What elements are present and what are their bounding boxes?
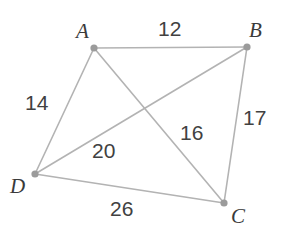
length-label-bc: 17	[243, 107, 266, 128]
vertex-point-c	[220, 199, 227, 206]
length-label-da: 14	[25, 92, 48, 113]
vertex-point-a	[90, 44, 97, 51]
vertex-label-a: A	[76, 21, 89, 42]
vertex-point-b	[243, 43, 250, 50]
length-label-db: 20	[92, 140, 115, 161]
segment-ab	[94, 47, 247, 48]
geometry-diagram: ABCD 121417162026	[0, 0, 295, 238]
vertex-label-c: C	[231, 206, 245, 227]
edges-group	[35, 47, 247, 203]
length-label-cd: 26	[110, 198, 133, 219]
vertex-point-d	[31, 170, 38, 177]
segment-db	[35, 47, 247, 174]
length-label-ac: 16	[180, 122, 203, 143]
vertex-label-b: B	[249, 20, 262, 41]
length-label-ab: 12	[158, 18, 181, 39]
vertex-label-d: D	[10, 176, 25, 197]
segment-ac	[94, 48, 224, 203]
vertices-group	[31, 43, 250, 206]
